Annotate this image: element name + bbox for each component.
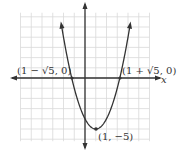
y-axis-up-arrow-icon	[83, 2, 88, 9]
x-axis-label: x	[161, 74, 167, 85]
vertex-label: (1, −5)	[98, 131, 133, 142]
x-axis-left-arrow-icon	[10, 76, 17, 81]
right-intercept-point	[118, 76, 121, 79]
y-axis-down-arrow-icon	[83, 143, 88, 150]
left-intercept-point	[70, 76, 73, 79]
y-axis	[83, 2, 88, 150]
parabola-chart: (1 − √5, 0) (1 + √5, 0) (1, −5) x	[0, 0, 177, 152]
x-axis	[10, 76, 162, 81]
right-intercept-label: (1 + √5, 0)	[122, 65, 176, 76]
left-intercept-label: (1 − √5, 0)	[17, 65, 71, 76]
